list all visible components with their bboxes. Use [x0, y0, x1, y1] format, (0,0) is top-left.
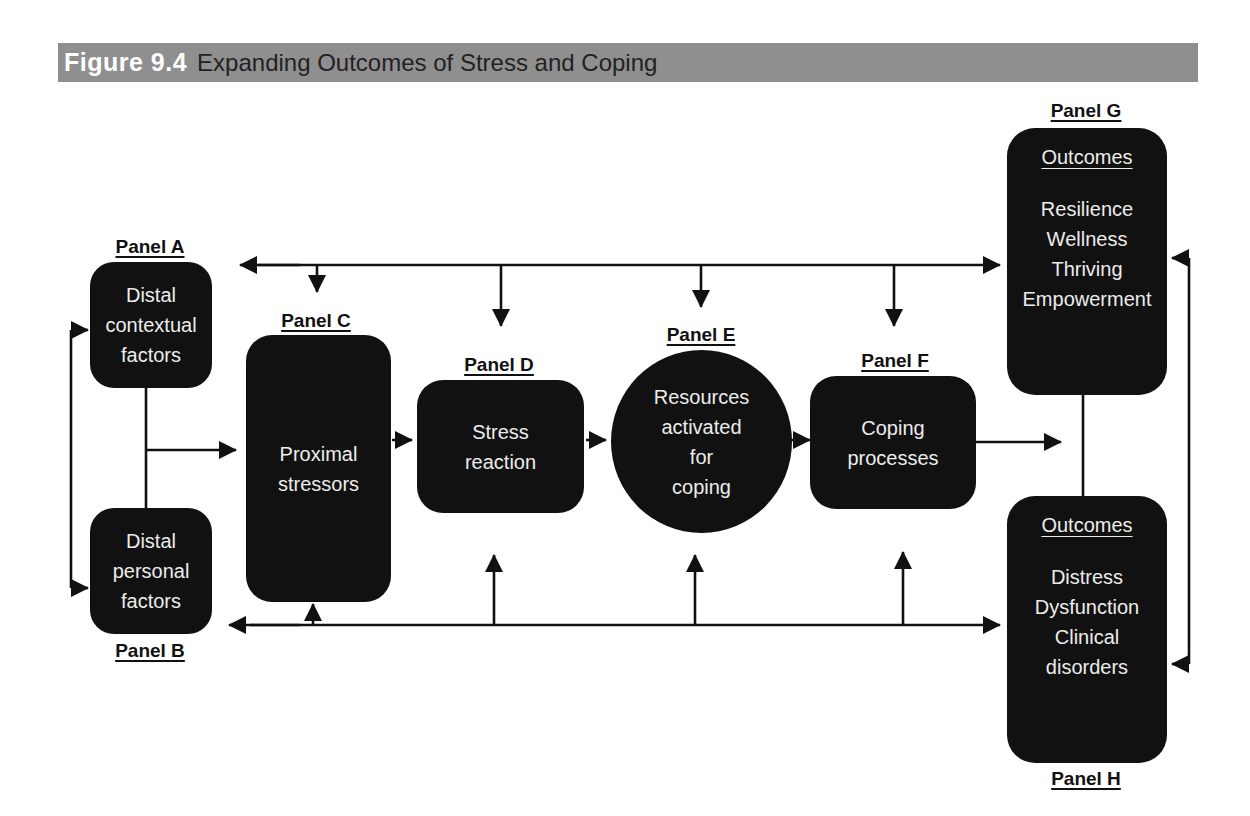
panel-e-label: Panel E: [651, 324, 751, 346]
panel-a-label: Panel A: [100, 236, 200, 258]
panel-b-text-line: Distal: [126, 526, 176, 556]
panel-d-stress-reaction: Stress reaction: [417, 380, 584, 513]
panel-f-label: Panel F: [845, 350, 945, 372]
panel-f-text-line: processes: [847, 443, 938, 473]
panel-b-text-line: personal: [113, 556, 190, 586]
panel-h-text-line: Clinical: [1055, 622, 1119, 652]
panel-d-text-line: reaction: [465, 447, 536, 477]
panel-h-text-line: Dysfunction: [1035, 592, 1140, 622]
panel-g-positive-outcomes: Outcomes Resilience Wellness Thriving Em…: [1007, 128, 1167, 395]
panel-h-negative-outcomes: Outcomes Distress Dysfunction Clinical d…: [1007, 496, 1167, 763]
panel-d-label: Panel D: [449, 354, 549, 376]
panel-a-text-line: contextual: [105, 310, 196, 340]
panel-c-text-line: Proximal: [280, 439, 358, 469]
panel-h-label: Panel H: [1036, 768, 1136, 790]
panel-a-text-line: factors: [121, 340, 181, 370]
panel-e-text-line: activated: [661, 412, 741, 442]
panel-h-text-line: disorders: [1046, 652, 1128, 682]
panel-g-text-line: Thriving: [1051, 254, 1122, 284]
panel-g-text-line: Wellness: [1047, 224, 1128, 254]
panel-f-coping-processes: Coping processes: [810, 376, 976, 509]
panel-g-label: Panel G: [1036, 100, 1136, 122]
panel-e-text-line: for: [690, 442, 713, 472]
panel-e-text-line: Resources: [654, 382, 750, 412]
panel-f-text-line: Coping: [861, 413, 924, 443]
panel-c-proximal-stressors: Proximal stressors: [246, 335, 391, 602]
panel-b-distal-personal-factors: Distal personal factors: [90, 508, 212, 634]
panel-c-text-line: stressors: [278, 469, 359, 499]
panel-e-text-line: coping: [672, 472, 731, 502]
panel-h-text-line: Distress: [1051, 562, 1123, 592]
panel-h-heading: Outcomes: [1041, 510, 1132, 540]
panel-d-text-line: Stress: [472, 417, 529, 447]
panel-g-text-line: Resilience: [1041, 194, 1133, 224]
panel-b-text-line: factors: [121, 586, 181, 616]
panel-c-label: Panel C: [266, 310, 366, 332]
panel-b-label: Panel B: [100, 640, 200, 662]
panel-g-text-line: Empowerment: [1023, 284, 1152, 314]
panel-a-distal-contextual-factors: Distal contextual factors: [90, 262, 212, 388]
panel-g-heading: Outcomes: [1041, 142, 1132, 172]
panel-a-text-line: Distal: [126, 280, 176, 310]
panel-e-resources-activated-for-coping: Resources activated for coping: [611, 350, 792, 533]
